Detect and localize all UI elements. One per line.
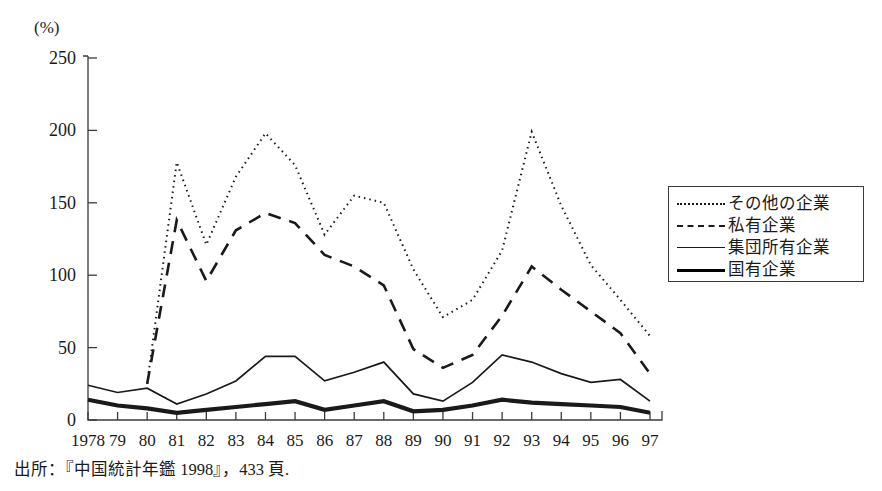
y-axis-tick-label: 0 <box>30 411 76 429</box>
chart-legend: その他の企業 私有企業 集団所有企業 国有企業 <box>668 186 864 282</box>
legend-label-state-owned-enterprises: 国有企業 <box>728 261 796 278</box>
legend-swatch-thick-solid-icon <box>677 263 725 275</box>
legend-label-other-enterprises: その他の企業 <box>728 195 830 212</box>
y-axis-tick-label: 250 <box>30 49 76 67</box>
y-axis-tick-label: 200 <box>30 121 76 139</box>
legend-item-other-enterprises: その他の企業 <box>669 192 863 214</box>
legend-swatch-dashed-icon <box>677 219 725 231</box>
figure-container: (%) その他の企業 私有企業 集団所有企業 国有企業 出所：『中国統計年鑑 1… <box>0 0 882 491</box>
legend-item-collective-enterprises: 集団所有企業 <box>669 236 863 258</box>
legend-label-private-enterprises: 私有企業 <box>728 217 796 234</box>
legend-item-state-owned-enterprises: 国有企業 <box>669 258 863 280</box>
legend-swatch-dotted-icon <box>677 197 725 209</box>
series-line <box>147 213 650 384</box>
y-axis-tick-label: 150 <box>30 194 76 212</box>
series-line <box>88 355 650 404</box>
source-note: 出所：『中国統計年鑑 1998』，433 頁. <box>14 456 289 480</box>
legend-swatch-thin-solid-icon <box>677 241 725 253</box>
legend-label-collective-enterprises: 集団所有企業 <box>728 239 830 256</box>
x-axis-tick-label: 97 <box>627 432 673 449</box>
y-axis-tick-label: 100 <box>30 266 76 284</box>
y-axis-tick-label: 50 <box>30 339 76 357</box>
series-line <box>147 132 650 384</box>
legend-item-private-enterprises: 私有企業 <box>669 214 863 236</box>
